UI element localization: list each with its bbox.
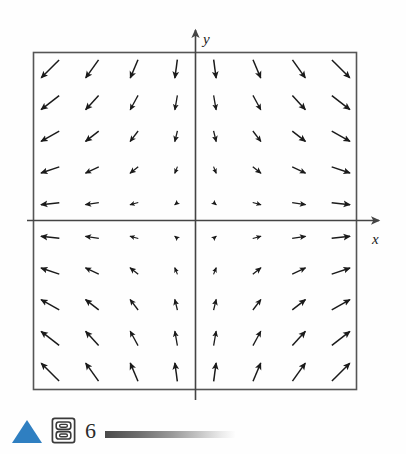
vector-arrow [332,96,350,110]
vector-arrow [130,363,138,381]
vector-arrow [214,331,217,346]
vector-arrow [175,60,177,78]
vector-arrow [41,203,59,205]
vector-arrow [214,60,216,78]
vector-arrow [41,60,59,78]
vector-arrow [332,203,350,205]
gradient-rule [105,431,235,438]
vector-arrow [332,300,350,310]
vector-arrow [86,131,99,141]
vector-arrow [292,60,305,78]
vector-arrow [213,202,216,204]
vector-arrow [175,363,177,381]
vector-arrow [292,236,305,238]
vector-arrow [175,167,178,174]
vector-arrow [41,331,59,345]
vector-arrow [253,167,261,173]
vector-arrow [86,300,99,310]
vector-arrow [130,95,138,109]
vector-arrow [253,95,261,109]
y-axis-label: y [201,31,210,47]
vector-arrow [214,268,217,275]
vector-field-plot: x y [0,0,406,404]
vector-arrow [130,331,138,345]
vector-arrow [292,95,305,109]
vector-arrow [253,268,261,274]
vector-arrow [41,268,59,274]
vector-arrow [130,167,138,173]
vector-arrow [253,300,261,311]
x-axis-label: x [371,231,379,247]
vector-arrow [175,202,178,204]
vector-arrow [41,300,59,310]
vector-arrow [175,95,178,110]
vector-arrow [332,331,350,345]
vector-arrow [85,203,98,205]
vector-arrow [41,363,59,381]
vector-arrow [41,96,59,110]
vector-arrow [41,236,59,238]
vector-arrow [214,95,217,110]
vector-arrow [175,131,178,142]
caption-bar: 6 [0,406,406,454]
vector-arrow [130,60,138,78]
figure-root: x y 6 [0,0,406,454]
vector-arrow [253,363,261,381]
vector-arrow [130,236,138,238]
vector-arrow [175,268,178,275]
vector-arrow [332,167,350,173]
vector-arrow [253,131,261,142]
vector-arrow [253,203,261,205]
vector-arrow [175,236,178,238]
vector-arrow [86,60,99,78]
vector-arrow [253,236,261,238]
vector-arrow [130,203,138,205]
stacked-panels-icon[interactable] [51,417,76,444]
vector-arrow [332,268,350,274]
plot-svg: x y [0,0,406,404]
vector-arrow [292,167,305,173]
vector-arrow [214,131,217,142]
figure-number: 6 [85,420,96,442]
vector-arrow [85,167,98,173]
play-triangle-icon[interactable] [12,420,42,443]
vector-arrow [332,363,350,381]
vector-arrow [253,60,261,78]
vector-arrow [292,203,305,205]
vector-arrow [86,331,99,345]
vector-arrow [214,167,217,174]
vector-arrow [332,236,350,238]
vector-arrow [214,363,216,381]
vector-arrow [130,300,138,311]
vector-arrow [213,236,216,238]
vector-arrow [86,95,99,109]
vector-arrow [41,131,59,141]
vector-arrow [175,331,178,346]
vector-arrow [130,131,138,142]
vector-arrow [332,131,350,141]
vector-arrow [85,236,98,238]
vector-arrow [41,167,59,173]
vector-arrow [175,299,178,310]
vector-arrow [292,300,305,310]
vector-arrow [86,363,99,381]
vector-arrow [292,331,305,345]
vector-arrow [85,268,98,274]
vector-arrow [253,331,261,345]
vector-arrow [292,363,305,381]
vector-arrow [332,60,350,78]
vector-arrow [292,131,305,141]
vector-arrow [214,299,217,310]
vector-arrow [292,268,305,274]
vector-arrow [130,268,138,274]
